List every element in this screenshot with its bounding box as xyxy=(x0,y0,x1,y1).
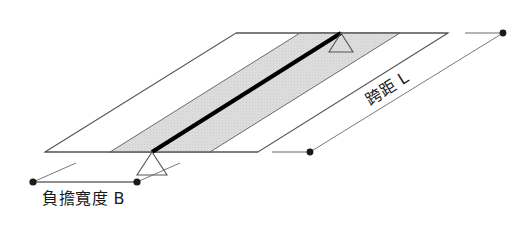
support-triangle-near xyxy=(137,152,167,175)
diagram-root: 跨距 L 負擔寬度 B xyxy=(0,0,520,230)
width-dimension-dot-right xyxy=(133,178,140,185)
width-leader-left xyxy=(33,163,76,182)
span-dimension-dot-lower xyxy=(307,149,314,156)
beam-span-diagram: 跨距 L 負擔寬度 B xyxy=(0,0,520,230)
width-dimension-dot-left xyxy=(29,178,36,185)
tributary-width-label: 負擔寬度 B xyxy=(42,189,125,208)
span-dimension-dot-upper xyxy=(500,30,507,37)
